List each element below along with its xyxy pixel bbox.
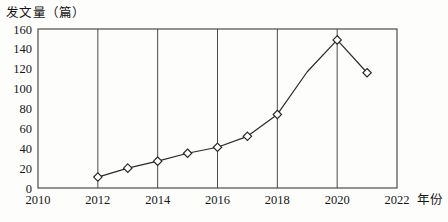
data-series-line <box>98 40 367 177</box>
chart-page: 发文量（篇） 020406080100120140160 20102012201… <box>0 0 448 222</box>
y-tick-label-20: 20 <box>20 162 33 176</box>
y-tick-label-100: 100 <box>13 82 32 96</box>
x-tick-label-2022: 2022 <box>385 193 410 207</box>
y-tick-label-60: 60 <box>20 122 33 136</box>
data-point-markers <box>94 36 372 182</box>
y-tick-label-140: 140 <box>13 42 32 56</box>
x-tick-label-2014: 2014 <box>145 193 171 207</box>
x-axis-unit-label: 年份 <box>417 193 443 207</box>
x-tick-label-2012: 2012 <box>85 193 110 207</box>
data-point-2018 <box>273 110 281 118</box>
x-tick-label-2020: 2020 <box>325 193 350 207</box>
data-point-2016 <box>213 143 221 151</box>
data-point-2014 <box>153 157 161 165</box>
data-point-2012 <box>94 173 102 181</box>
data-point-2017 <box>243 132 251 140</box>
y-tick-label-40: 40 <box>20 142 33 156</box>
gridlines-group <box>98 29 337 188</box>
x-tick-label-2016: 2016 <box>205 193 230 207</box>
data-point-2015 <box>183 149 191 157</box>
y-tick-label-120: 120 <box>13 62 32 76</box>
line-chart-plot: 020406080100120140160 201020122014201620… <box>0 0 448 222</box>
x-tick-label-2010: 2010 <box>26 193 51 207</box>
x-axis-unit-text: 年份 <box>417 193 443 207</box>
y-tick-label-160: 160 <box>13 23 32 37</box>
data-point-2013 <box>124 164 132 172</box>
y-axis-tick-labels: 020406080100120140160 <box>13 23 32 196</box>
y-tick-label-80: 80 <box>20 102 33 116</box>
x-tick-label-2018: 2018 <box>265 193 290 207</box>
x-axis-tick-labels: 2010201220142016201820202022 <box>26 193 410 207</box>
series-polyline <box>98 40 367 177</box>
